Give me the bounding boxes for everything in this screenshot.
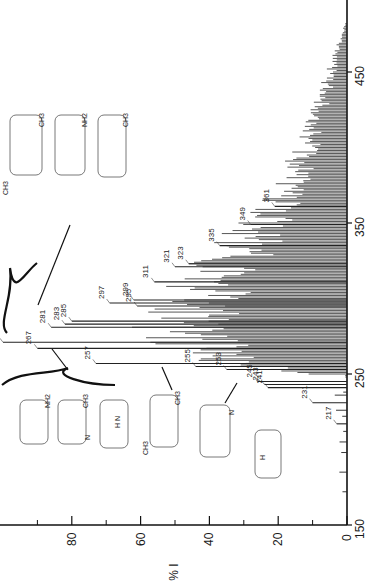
- peak-label-361: 361: [262, 188, 271, 202]
- structure-group-281: CH3 CH3 NH2 CH3: [2, 113, 129, 333]
- structure-benzocarbazole: H: [255, 430, 281, 478]
- arrow-281: [38, 225, 70, 305]
- peak-label-321: 321: [162, 249, 171, 263]
- peak-label-285: 285: [59, 303, 68, 317]
- hn-label: H N: [114, 416, 121, 428]
- mz-axis-ticks: 150250350450: [347, 66, 367, 539]
- peak-label-335: 335: [207, 228, 216, 242]
- intensity-tick-label: 0: [340, 534, 354, 541]
- n-label: N: [228, 410, 235, 415]
- peak-label-311: 311: [141, 265, 150, 278]
- peak-label-281: 281: [38, 309, 47, 323]
- peak-label-323: 323: [176, 246, 185, 260]
- structure-253: N: [200, 383, 237, 457]
- arrow-257: [162, 367, 172, 390]
- intensity-tick-label: 40: [202, 532, 216, 546]
- peak-label-255: 255: [183, 349, 192, 363]
- intensity-tick-label: 20: [271, 532, 285, 546]
- mass-spectrum-chart: 150250350450 020406080 % I 2172312412432…: [0, 0, 381, 587]
- arrow-267: [52, 349, 68, 370]
- nh2-label: NH2: [81, 113, 88, 127]
- mz-tick-label: 150: [353, 519, 367, 539]
- ch3-label: CH3: [2, 181, 9, 195]
- intensity-axis-label: % I: [167, 563, 181, 580]
- ch3-label: CH3: [174, 391, 181, 405]
- peak-label-217: 217: [324, 406, 333, 420]
- peak-label-257: 257: [83, 346, 92, 360]
- mz-tick-label: 250: [353, 368, 367, 388]
- peak-label-231: 231: [300, 385, 309, 399]
- arrow-253: [225, 383, 237, 403]
- mz-tick-label: 450: [353, 66, 367, 86]
- intensity-tick-label: 80: [65, 532, 79, 546]
- ch3-label: CH3: [122, 113, 129, 127]
- brace-icon: [2, 368, 115, 385]
- labeled-peaks: 2172312412432452532552572672712812832852…: [0, 188, 347, 423]
- mz-tick-label: 350: [353, 217, 367, 237]
- peak-label-297: 297: [97, 285, 106, 299]
- intensity-axis-ticks: 020406080: [37, 516, 354, 546]
- peak-label-349: 349: [238, 207, 247, 221]
- n-label: N: [84, 435, 91, 440]
- nh2-label: NH2: [44, 394, 51, 408]
- ch3-label: CH3: [82, 394, 89, 408]
- peak-label-299: 299: [121, 282, 130, 296]
- structure-257: CH3 CH3: [142, 367, 181, 455]
- peak-label-245: 245: [245, 364, 254, 378]
- h-label: H: [259, 455, 266, 460]
- ch3-label: CH3: [142, 441, 149, 455]
- brace-icon: [4, 263, 37, 333]
- ch3-label: CH3: [38, 113, 45, 127]
- intensity-tick-label: 60: [134, 532, 148, 546]
